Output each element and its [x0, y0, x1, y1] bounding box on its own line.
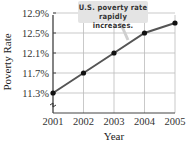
y-tick-label: 11.3% [22, 88, 49, 99]
data-point [50, 90, 55, 95]
y-tick-labels: 11.3%11.7%12.1%12.5%12.9% [22, 8, 49, 99]
x-tick-label: 2001 [43, 116, 64, 127]
x-axis-label: Year [104, 130, 125, 142]
y-tick-label: 11.7% [22, 68, 49, 79]
axis-break-icon [50, 103, 56, 107]
x-tick-label: 2005 [165, 116, 186, 127]
y-tick-label: 12.5% [22, 28, 49, 39]
annotation-line-2: rapidly increases. [78, 12, 148, 30]
data-point [172, 20, 177, 25]
y-tick-label: 12.1% [22, 48, 49, 59]
x-tick-label: 2004 [134, 116, 156, 127]
x-tick-label: 2002 [73, 116, 94, 127]
annotation-line-1: U.S. poverty rate [78, 3, 148, 12]
y-tick-label: 12.9% [22, 8, 49, 19]
data-point [142, 30, 147, 35]
x-tick-label: 2003 [104, 116, 125, 127]
x-tick-labels: 20012002200320042005 [43, 116, 186, 127]
annotation-callout: U.S. poverty rate rapidly increases. [78, 1, 148, 23]
data-point [81, 70, 86, 75]
y-axis-label: Poverty Rate [1, 33, 13, 90]
data-point [111, 50, 116, 55]
